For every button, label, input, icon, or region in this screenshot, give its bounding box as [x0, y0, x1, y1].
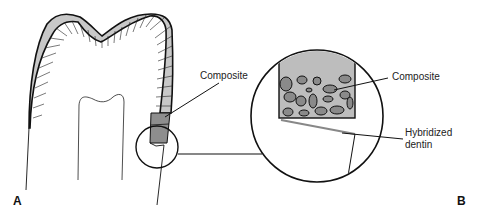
panel-label-a: A [13, 194, 22, 208]
root-line-left [26, 128, 29, 190]
tooth-diagram [0, 0, 477, 217]
composite-label-a: Composite [200, 70, 248, 82]
enamel-layer [29, 14, 173, 128]
composite-label-b: Composite [392, 71, 440, 83]
hybridized-label-line1: Hybridized [405, 127, 452, 139]
root-line-right [157, 145, 164, 205]
pulp-chamber-outline [78, 94, 124, 180]
hybridized-label-line2: dentin [405, 139, 432, 151]
panel-label-b: B [457, 194, 466, 208]
